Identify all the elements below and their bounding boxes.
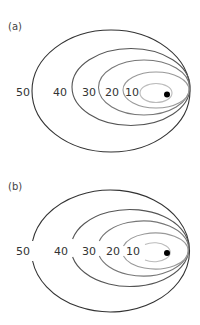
contour-label-20: 20	[105, 86, 119, 99]
focus-dot	[164, 250, 170, 256]
contour-label-10: 10	[126, 245, 140, 258]
contour-label-20: 20	[106, 245, 120, 258]
panel-b: 50 40 30 20 10 (b)	[0, 160, 200, 322]
contour-diagram-a: 50 40 30 20 10	[0, 0, 200, 162]
panel-label-a: (a)	[8, 21, 22, 32]
panel-a: 50 40 30 20 10 (a)	[0, 0, 200, 162]
focus-dot	[164, 92, 170, 98]
contour-label-10: 10	[125, 86, 139, 99]
contour-diagram-b: 50 40 30 20 10	[0, 160, 200, 322]
contour-label-50: 50	[16, 86, 30, 99]
contour-label-30: 30	[82, 245, 96, 258]
contour-label-30: 30	[82, 86, 96, 99]
contour-label-40: 40	[53, 86, 67, 99]
panel-label-b: (b)	[8, 181, 22, 192]
contour-label-40: 40	[54, 245, 68, 258]
contour-label-50: 50	[16, 245, 30, 258]
